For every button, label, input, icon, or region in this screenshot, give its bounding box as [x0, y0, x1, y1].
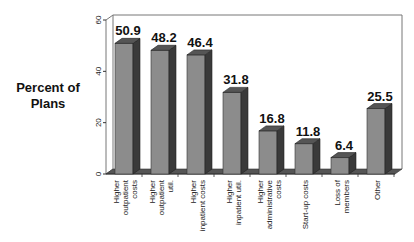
svg-text:Higher: Higher	[256, 180, 265, 204]
svg-text:outpatient: outpatient	[157, 179, 166, 215]
y-tick-label: 20	[94, 118, 103, 127]
bar-side	[313, 139, 320, 174]
svg-text:inpatient costs: inpatient costs	[198, 180, 207, 231]
bar-side	[277, 126, 284, 174]
bar-front	[223, 92, 241, 174]
bar: 11.8Start-up costs	[295, 124, 322, 230]
bar-value-label: 46.4	[187, 35, 213, 50]
svg-text:Start-up costs: Start-up costs	[301, 180, 310, 229]
bar: 50.9Higheroutpatientcosts	[112, 23, 142, 215]
plot-floor	[106, 169, 402, 174]
bars: 50.9Higheroutpatientcosts48.2Higheroutpa…	[112, 23, 394, 231]
bar-front	[295, 144, 313, 174]
bar-side	[205, 50, 212, 174]
x-category-label: Higheroutpatientutil.	[148, 179, 175, 215]
y-tick-label: 40	[94, 66, 103, 75]
svg-text:outpatient: outpatient	[121, 179, 130, 215]
bar: 6.4Loss ofmembers	[331, 138, 358, 214]
bar: 16.8Higheradministrativecosts	[256, 111, 286, 229]
bar-value-label: 25.5	[367, 89, 392, 104]
svg-text:util.: util.	[166, 180, 175, 192]
bar: 31.8Higherinpatient util.	[223, 72, 250, 225]
y-tick-label: 0	[94, 171, 103, 176]
bar-value-label: 50.9	[115, 23, 140, 38]
bar-front	[367, 109, 385, 174]
bar-value-label: 31.8	[223, 72, 248, 87]
bar-front	[331, 158, 349, 174]
bar: 25.5Other	[367, 89, 394, 200]
bar-chart: 020406050.9Higheroutpatientcosts48.2High…	[0, 0, 414, 242]
bar-side	[385, 104, 392, 174]
bar-side	[241, 87, 248, 174]
bar-value-label: 6.4	[335, 138, 354, 153]
x-category-label: Other	[373, 180, 382, 200]
svg-text:Higher: Higher	[225, 180, 234, 204]
svg-text:administrative: administrative	[265, 179, 274, 229]
svg-text:inpatient util.: inpatient util.	[234, 180, 243, 225]
bar-value-label: 48.2	[151, 30, 176, 45]
svg-text:costs: costs	[130, 180, 139, 199]
svg-text:Higher: Higher	[189, 180, 198, 204]
svg-text:members: members	[342, 180, 351, 213]
x-category-label: Loss ofmembers	[333, 179, 351, 213]
x-category-label: Higheradministrativecosts	[256, 179, 283, 229]
bar-front	[151, 50, 169, 174]
bar: 46.4Higherinpatient costs	[187, 35, 214, 231]
y-tick-label: 60	[94, 15, 103, 24]
y-axis: 0204060	[94, 15, 106, 176]
x-category-label: Higherinpatient costs	[189, 180, 207, 231]
bar-front	[187, 55, 205, 174]
svg-text:costs: costs	[274, 180, 283, 199]
x-category-label: Higherinpatient util.	[225, 180, 243, 225]
svg-text:Higher: Higher	[112, 180, 121, 204]
bar-front	[115, 43, 133, 174]
bar-side	[133, 38, 140, 174]
bar-value-label: 11.8	[296, 124, 321, 139]
x-category-label: Higheroutpatientcosts	[112, 179, 139, 215]
x-category-label: Start-up costs	[301, 180, 310, 229]
svg-text:Higher: Higher	[148, 180, 157, 204]
bar-value-label: 16.8	[259, 111, 284, 126]
bar: 48.2Higheroutpatientutil.	[148, 30, 178, 215]
svg-text:Other: Other	[373, 180, 382, 200]
svg-text:Loss of: Loss of	[333, 179, 342, 206]
bar-side	[169, 45, 176, 174]
bar-front	[259, 131, 277, 174]
